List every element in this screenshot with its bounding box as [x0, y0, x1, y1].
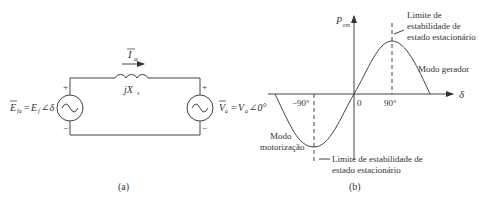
limit-bottom-2: estado estacionário [332, 165, 401, 175]
inductor-icon [115, 74, 148, 78]
limit-top-2: estabilidade de [407, 21, 461, 31]
current-label: I [127, 48, 133, 60]
plus-right: + [202, 82, 207, 92]
svg-text:∠0°: ∠0° [249, 102, 266, 113]
y-axis-sub: em [343, 22, 351, 28]
current-sub: a [134, 55, 138, 63]
x-axis-label: δ [459, 88, 465, 100]
svg-text:a: a [245, 108, 248, 114]
svg-text:∠δ: ∠δ [41, 102, 54, 113]
generator-mode-label: Modo gerador [418, 64, 469, 74]
source-left-label: E fa = E f ∠δ [9, 101, 54, 114]
leader-top [394, 30, 404, 34]
circuit-diagram [57, 64, 213, 135]
limit-top-1: Limite de [407, 10, 442, 20]
minus-right: − [202, 123, 207, 133]
tick-neg90: −90° [292, 98, 310, 108]
caption-b: (b) [349, 181, 361, 193]
motor-mode-label-2: motorização [260, 142, 305, 152]
tick-zero: 0 [357, 98, 362, 108]
tick-pos90: 90° [384, 98, 397, 108]
reactance-sub: s [137, 90, 140, 96]
svg-text:fa: fa [17, 108, 22, 114]
svg-text:E: E [30, 102, 37, 113]
svg-text:=: = [24, 102, 30, 113]
svg-text:=: = [231, 102, 237, 113]
source-right-label: V a = V a ∠0° [219, 101, 266, 114]
sine-glyph-left-icon [62, 104, 78, 112]
y-axis-label: P [335, 15, 342, 26]
minus-left: − [63, 123, 68, 133]
sine-glyph-right-icon [192, 104, 208, 112]
plus-left: + [63, 82, 68, 92]
limit-bottom-1: Limite de estabilidade de [332, 154, 423, 164]
limit-top-3: estado estacionário [407, 32, 476, 42]
svg-text:a: a [225, 108, 228, 114]
reactance-label: jX [122, 84, 134, 95]
svg-text:E: E [9, 102, 16, 113]
diagram-canvas: I a jX s + − + − E fa = E f ∠δ V a = V a… [0, 0, 485, 203]
caption-a: (a) [118, 181, 129, 193]
motor-mode-label-1: Modo [270, 131, 292, 141]
